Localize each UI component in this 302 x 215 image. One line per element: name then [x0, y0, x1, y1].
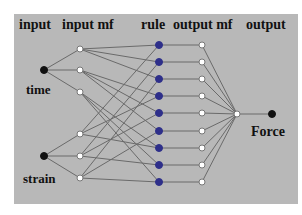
output-node [234, 111, 240, 117]
edge [80, 49, 159, 79]
header-input-mf: input mf [62, 17, 114, 33]
input-mf-node [77, 46, 83, 52]
output-mf-node [199, 76, 205, 82]
edge [80, 45, 159, 49]
edge [202, 114, 237, 165]
edge [202, 114, 237, 148]
output-mf-node [199, 145, 205, 151]
rule-node [156, 110, 163, 117]
edge [202, 113, 237, 114]
edge [44, 134, 80, 156]
input-mf-node [77, 89, 83, 95]
rule-node [156, 42, 163, 49]
input-node [41, 67, 48, 74]
header-input: input [19, 17, 51, 33]
input-mf-node [77, 131, 83, 137]
input-label-time: time [26, 82, 51, 98]
input-mf-node [77, 153, 83, 159]
edge [202, 79, 237, 114]
output-mf-node [199, 42, 205, 48]
rule-node [156, 162, 163, 169]
output-mf-node [199, 128, 205, 134]
rule-node [156, 179, 163, 186]
output-mf-node [199, 59, 205, 65]
edge [202, 114, 237, 182]
header-output: output [246, 17, 286, 33]
edge [80, 92, 159, 182]
rule-node [156, 128, 163, 135]
output-mf-node [199, 179, 205, 185]
edge [202, 45, 237, 114]
edge [80, 178, 159, 182]
edge [80, 45, 159, 134]
rule-node [156, 93, 163, 100]
output-mf-node [199, 110, 205, 116]
rule-node [156, 59, 163, 66]
edge [202, 62, 237, 114]
edge [80, 70, 159, 96]
header-output-mf: output mf [173, 17, 233, 33]
output-label-force: Force [251, 124, 285, 140]
header-rule: rule [141, 17, 165, 33]
input-node [41, 153, 48, 160]
edge [80, 134, 159, 148]
edge [80, 49, 159, 62]
rule-node [156, 76, 163, 83]
rule-node [156, 145, 163, 152]
output-mf-node [199, 162, 205, 168]
input-mf-node [77, 175, 83, 181]
edge [202, 96, 237, 114]
edge [44, 49, 80, 70]
force-node [269, 111, 276, 118]
input-mf-node [77, 67, 83, 73]
input-label-strain: strain [23, 171, 56, 187]
output-mf-node [199, 93, 205, 99]
